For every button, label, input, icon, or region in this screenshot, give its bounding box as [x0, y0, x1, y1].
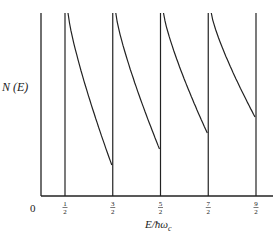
density-of-states-chart: N (E) 0 1232527292 E/ħωc	[0, 0, 280, 241]
svg-text:3: 3	[111, 200, 115, 208]
svg-text:2: 2	[159, 208, 163, 216]
svg-text:7: 7	[207, 200, 211, 208]
tick-label: 72	[206, 200, 211, 216]
tick-label: 52	[158, 200, 163, 216]
svg-text:5: 5	[159, 200, 163, 208]
dos-curve-segment	[211, 13, 255, 117]
y-axis-label: N (E)	[1, 80, 28, 94]
svg-text:2: 2	[207, 208, 211, 216]
landau-level-lines	[65, 13, 256, 196]
dos-curve-segment	[164, 13, 208, 133]
svg-text:2: 2	[111, 208, 115, 216]
x-tick-labels: 1232527292	[63, 200, 259, 216]
x-axis-label: E/ħωc	[144, 218, 172, 233]
origin-label: 0	[30, 202, 36, 214]
tick-label: 92	[254, 200, 259, 216]
svg-text:2: 2	[63, 208, 67, 216]
dos-curve-segment	[116, 13, 160, 149]
tick-label: 12	[63, 200, 68, 216]
svg-text:2: 2	[254, 208, 258, 216]
dos-curve-segment	[68, 13, 112, 165]
axes	[41, 13, 273, 196]
tick-label: 32	[110, 200, 115, 216]
svg-text:1: 1	[63, 200, 67, 208]
dos-curves	[68, 13, 255, 165]
svg-text:9: 9	[254, 200, 258, 208]
